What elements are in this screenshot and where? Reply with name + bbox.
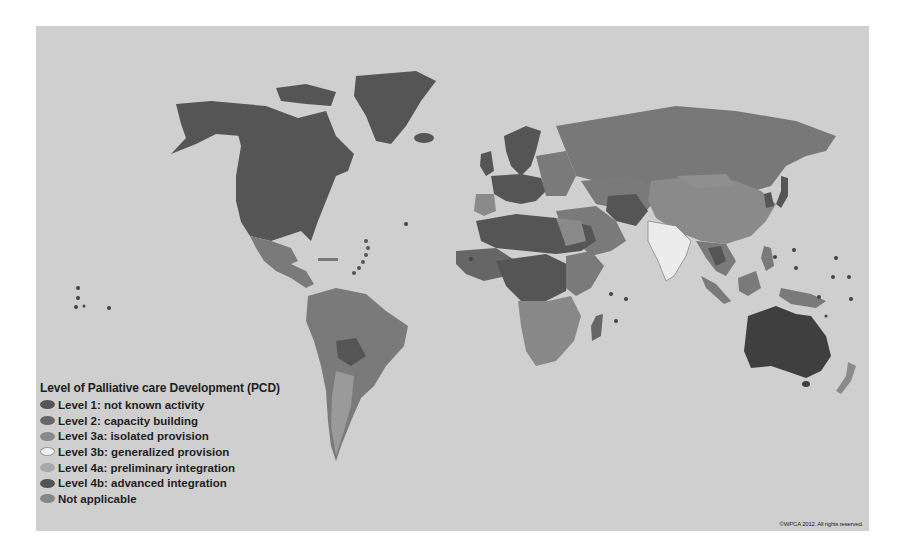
region-north-america [211, 101, 354, 241]
legend-swatch-icon [40, 400, 55, 409]
region-central-africa [496, 254, 571, 301]
legend-item-level-3a: Level 3a: isolated provision [40, 428, 280, 444]
legend-title: Level of Palliative care Development (PC… [40, 381, 280, 395]
legend-item-not-applicable: Not applicable [40, 491, 280, 507]
legend: Level of Palliative care Development (PC… [40, 381, 280, 507]
legend-item-level-4a: Level 4a: preliminary integration [40, 460, 280, 476]
region-caribbean [318, 239, 370, 275]
region-japan [776, 176, 788, 208]
region-iceland [414, 133, 434, 143]
legend-label: Not applicable [58, 493, 137, 505]
legend-label: Level 4a: preliminary integration [58, 462, 235, 474]
legend-item-level-3b: Level 3b: generalized provision [40, 444, 280, 460]
legend-item-level-1: Level 1: not known activity [40, 397, 280, 413]
region-tasmania [802, 381, 810, 387]
legend-swatch-icon [40, 432, 55, 441]
world-map-panel: Level of Palliative care Development (PC… [36, 26, 869, 531]
region-borneo [738, 271, 761, 296]
legend-label: Level 3b: generalized provision [58, 446, 229, 458]
region-madagascar [591, 314, 603, 341]
region-new-zealand [836, 362, 856, 394]
region-sumatra [701, 276, 731, 304]
legend-swatch-icon [40, 463, 55, 472]
legend-item-level-2: Level 2: capacity building [40, 413, 280, 429]
region-southern-africa [518, 296, 581, 366]
region-mexico [250, 236, 314, 288]
legend-label: Level 4b: advanced integration [58, 477, 227, 489]
legend-item-level-4b: Level 4b: advanced integration [40, 475, 280, 491]
region-iberia [474, 194, 496, 216]
legend-label: Level 2: capacity building [58, 415, 198, 427]
region-east-africa [566, 251, 604, 296]
region-scandinavia [504, 126, 541, 176]
region-philippines [761, 246, 774, 271]
region-south-america [306, 288, 408, 461]
copyright-credit: ©WPCA 2012. All rights reserved. [780, 521, 863, 527]
legend-swatch-icon [40, 479, 55, 488]
legend-label: Level 3a: isolated provision [58, 430, 209, 442]
legend-label: Level 1: not known activity [58, 399, 204, 411]
legend-swatch-icon [40, 447, 55, 456]
region-western-europe [491, 174, 546, 204]
region-australia [744, 306, 831, 378]
region-uk [480, 151, 494, 176]
legend-swatch-icon [40, 494, 55, 503]
legend-swatch-icon [40, 416, 55, 425]
region-arctic-islands [276, 84, 336, 106]
